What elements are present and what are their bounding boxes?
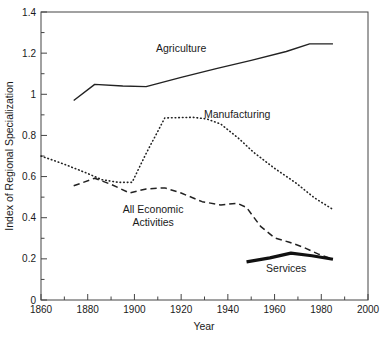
y-tick-label: 0.2	[22, 253, 36, 264]
y-axis-tick-labels: 00.20.40.60.811.21.4	[22, 7, 36, 306]
series-label-all-economic-line1: All Economic	[123, 203, 184, 215]
y-tick-label: 0.6	[22, 171, 36, 182]
series-label-manufacturing: Manufacturing	[204, 108, 271, 120]
x-tick-label: 1980	[310, 304, 333, 315]
y-tick-label: 0	[30, 295, 36, 306]
x-axis-title: Year	[193, 320, 215, 332]
x-tick-label: 2000	[357, 304, 380, 315]
regional-specialization-line-chart: 18601880190019201940196019802000 00.20.4…	[0, 0, 385, 338]
y-axis-title: Index of Regional Specialization	[3, 81, 15, 231]
x-tick-label: 1960	[263, 304, 286, 315]
y-tick-label: 0.8	[22, 130, 36, 141]
y-tick-label: 1	[30, 89, 36, 100]
x-tick-label: 1940	[217, 304, 240, 315]
x-tick-label: 1920	[170, 304, 193, 315]
x-tick-label: 1860	[30, 304, 53, 315]
chart-container: 18601880190019201940196019802000 00.20.4…	[0, 0, 385, 338]
y-tick-label: 0.4	[22, 212, 36, 223]
x-tick-label: 1900	[123, 304, 146, 315]
series-label-all-economic-line2: Activities	[132, 216, 173, 228]
y-tick-label: 1.2	[22, 48, 36, 59]
y-tick-label: 1.4	[22, 7, 36, 18]
x-tick-label: 1880	[77, 304, 100, 315]
series-label-services: Services	[266, 262, 306, 274]
series-label-agriculture: Agriculture	[156, 42, 206, 54]
x-axis-tick-labels: 18601880190019201940196019802000	[30, 304, 380, 315]
